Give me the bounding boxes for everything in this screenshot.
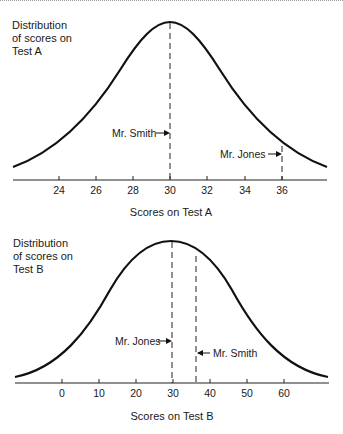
chart-b-tick-label: 10	[93, 387, 105, 399]
chart-b-tick-label: 0	[59, 387, 65, 399]
chart-b-tick-label: 20	[130, 387, 142, 399]
arrow-left-icon	[197, 350, 203, 356]
chart-a-tick-label: 30	[164, 184, 176, 196]
arrow-right-icon	[166, 338, 172, 344]
chart-a-annotation-smith: Mr. Smith	[112, 127, 156, 139]
chart-a-annotation-jones: Mr. Jones	[220, 148, 266, 160]
chart-b-title: Distribution of scores on Test B	[13, 237, 73, 276]
chart-a-tick-label: 36	[276, 184, 288, 196]
chart-b-annotation-smith: Mr. Smith	[213, 347, 257, 359]
chart-a-tick-label: 34	[239, 184, 251, 196]
chart-a-x-axis-label: Scores on Test A	[130, 206, 212, 218]
chart-b-tick-label: 30	[167, 387, 179, 399]
chart-a-tick-label: 32	[201, 184, 213, 196]
chart-a-tick-label: 26	[90, 184, 102, 196]
chart-a-title: Distribution of scores on Test A	[12, 19, 72, 58]
chart-b-annotation-jones: Mr. Jones	[115, 335, 161, 347]
chart-b-x-axis-label: Scores on Test B	[131, 410, 214, 422]
chart-a-tick-label: 24	[53, 184, 65, 196]
arrow-right-icon	[276, 151, 282, 157]
chart-b-tick-label: 60	[278, 387, 290, 399]
chart-a-tick-label: 28	[127, 184, 139, 196]
chart-b-tick-label: 40	[204, 387, 216, 399]
chart-b-tick-label: 50	[241, 387, 253, 399]
arrow-right-icon	[164, 130, 170, 136]
